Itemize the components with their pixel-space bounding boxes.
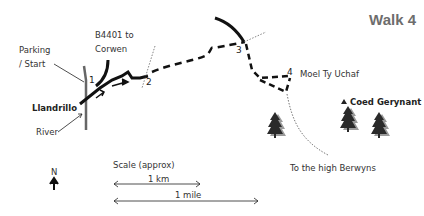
scale-mile-label: 1 mile [175, 191, 201, 200]
waypoint-4: 4 [287, 68, 293, 77]
label-road-line2: Corwen [95, 45, 127, 54]
tree-icon [340, 106, 359, 132]
scale-km-label: 1 km [148, 175, 169, 184]
label-wood: Coed Gerynant [350, 98, 421, 107]
compass-label: N [51, 168, 57, 177]
label-village: Llandrillo [32, 104, 77, 113]
tree-icon [267, 112, 286, 138]
waypoint-3: 3 [236, 46, 242, 55]
walk-title: Walk 4 [369, 11, 416, 28]
label-start: / Start [19, 60, 45, 69]
waypoint-1: 1 [89, 76, 95, 85]
parking-pointer [54, 64, 84, 82]
label-direction: To the high Berwyns [290, 164, 376, 173]
scale-title: Scale (approx) [113, 161, 174, 170]
label-hill: Moel Ty Uchaf [300, 70, 359, 79]
north-arrow-icon [50, 178, 58, 190]
track-to-berwyns [287, 94, 328, 155]
tree-icon [371, 112, 390, 138]
track-dotted [244, 32, 266, 42]
road-north [215, 18, 244, 42]
wood-marker-icon [341, 99, 347, 104]
label-river: River [36, 128, 58, 137]
route-dashed-section [246, 44, 288, 78]
label-road-line1: B4401 to [95, 31, 134, 40]
route-dashed-section [260, 78, 290, 92]
label-parking: Parking [19, 46, 51, 55]
waypoint-2: 2 [146, 78, 152, 87]
river-pointer [58, 114, 82, 132]
route-dashed-section [152, 42, 245, 72]
